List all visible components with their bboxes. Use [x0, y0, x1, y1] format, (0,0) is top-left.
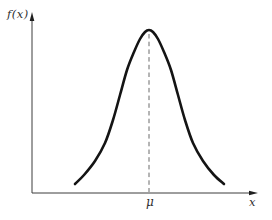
- y-axis-arrowhead: [30, 12, 35, 21]
- density-figure: f(x) x μ: [0, 0, 272, 220]
- y-axis-label: f(x): [7, 9, 29, 21]
- figure-canvas: [0, 0, 272, 220]
- x-axis-label: x: [249, 197, 256, 209]
- mean-label: μ: [146, 196, 154, 208]
